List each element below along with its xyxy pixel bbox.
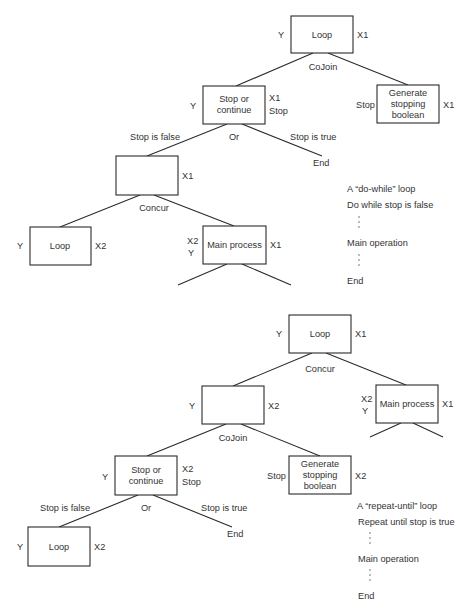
edge-label-stop-false: Stop is false: [130, 132, 180, 142]
edge-blank-to-stop-or-continue: [147, 424, 226, 456]
node-label-line-2: continue: [129, 476, 164, 486]
edge-label-cojoin: CoJoin: [309, 62, 338, 72]
edge-main-process-tail-right: [413, 423, 443, 437]
caption-line-repeat-until: Repeat until stop is true: [358, 517, 455, 527]
node-label-line-2: stopping: [391, 99, 426, 109]
tag-left: Y: [17, 542, 23, 552]
tag-right: X1: [442, 399, 453, 409]
tag-left: Y: [17, 241, 23, 251]
node-stop-or-continue: Stop or continue Y X1 Stop: [190, 86, 288, 124]
edge-label-cojoin: CoJoin: [219, 433, 248, 443]
tag-right-1: X2: [182, 464, 193, 474]
tag-left: Stop: [267, 471, 286, 481]
node-stop-or-continue: Stop or continue Y X2 Stop: [102, 456, 201, 495]
node-label-line-1: Generate: [389, 88, 427, 98]
tag-left: Y: [190, 101, 196, 111]
edge-label-concur: Concur: [139, 203, 169, 213]
edge-loop-to-main-process: [326, 353, 406, 385]
node-main-process: Main process X2 Y X1: [361, 385, 453, 423]
tag-right: X2: [95, 241, 106, 251]
edge-label-end: End: [227, 529, 243, 539]
caption-title: A “do-while” loop: [347, 184, 415, 194]
caption-line-main-operation: Main operation: [347, 238, 408, 248]
node-label: Loop: [310, 329, 330, 339]
caption-line-do-while: Do while stop is false: [347, 200, 433, 210]
tag-left-1: X2: [361, 394, 372, 404]
edge-blank-to-generate: [241, 424, 320, 456]
node-label-line-1: Stop or: [219, 94, 249, 104]
node-blank: Y X2: [189, 386, 279, 424]
do-while-caption: A “do-while” loop Do while stop is false…: [347, 184, 433, 286]
node-label: Main process: [380, 399, 435, 409]
tag-right-2: Stop: [182, 477, 201, 487]
node-label: Loop: [50, 241, 70, 251]
edge-label-concur: Concur: [305, 364, 335, 374]
tag-left: Y: [102, 472, 108, 482]
tag-right: X2: [268, 401, 279, 411]
node-label-line-3: boolean: [304, 481, 337, 491]
tag-right: X1: [355, 329, 366, 339]
node-label-line-1: Generate: [301, 459, 339, 469]
repeat-until-caption: A “repeat-until” loop Repeat until stop …: [357, 501, 455, 601]
node-loop-root: Loop Y X1: [276, 315, 366, 353]
edge-label-stop-true: Stop is true: [290, 132, 336, 142]
tag-right: X1: [357, 30, 368, 40]
edge-main-process-tail-left: [370, 423, 401, 437]
caption-title: A “repeat-until” loop: [357, 501, 437, 511]
node-generate-stopping-boolean: Generate stopping boolean Stop X1: [356, 85, 454, 123]
tag-right-2: Stop: [269, 106, 288, 116]
tag-right: X1: [182, 171, 193, 181]
node-main-process: Main process X2 Y X1: [187, 226, 281, 264]
tag-right: X1: [443, 100, 454, 110]
node-loop-root: Loop Y X1: [278, 16, 368, 53]
node-label-line-3: boolean: [392, 110, 425, 120]
caption-line-main-operation: Main operation: [358, 554, 419, 564]
tag-left-2: Y: [188, 248, 194, 258]
caption-line-end: End: [347, 276, 363, 286]
node-label-line-2: continue: [217, 105, 252, 115]
edge-blank-to-loop: [60, 195, 140, 227]
node-loop-child: Loop Y X2: [17, 527, 105, 566]
node-label-line-1: Stop or: [131, 465, 161, 475]
repeat-until-diagram: Loop Y X1 Concur Y X2 Main process X2 Y …: [17, 315, 455, 601]
edge-loop-to-generate: [328, 53, 408, 85]
node-label-line-2: stopping: [303, 470, 338, 480]
tag-right-1: X1: [269, 93, 280, 103]
edge-loop-to-stop-or-continue: [236, 53, 313, 86]
node-blank: X1: [116, 156, 193, 195]
tag-left: Stop: [356, 100, 375, 110]
node-label: Main process: [207, 240, 262, 250]
node-label: Loop: [49, 542, 69, 552]
edge-main-process-tail-left: [178, 264, 227, 285]
tag-left-1: X2: [187, 236, 198, 246]
edge-label-stop-false: Stop is false: [40, 503, 90, 513]
edge-label-end: End: [313, 158, 329, 168]
tag-left: Y: [276, 329, 282, 339]
tag-right: X2: [355, 471, 366, 481]
tag-left-2: Y: [362, 406, 368, 416]
node-label: Loop: [312, 30, 332, 40]
edge-main-process-tail-right: [242, 264, 291, 285]
edge-label-or: Or: [229, 132, 239, 142]
tag-left: Y: [189, 401, 195, 411]
edge-loop-to-blank: [233, 353, 312, 386]
do-while-diagram: Loop Y X1 CoJoin Stop or continue Y X1 S…: [17, 16, 454, 286]
tag-right: X1: [270, 240, 281, 250]
edge-label-stop-true: Stop is true: [201, 503, 247, 513]
caption-line-end: End: [358, 591, 374, 601]
edge-label-or: Or: [141, 503, 151, 513]
node-generate-stopping-boolean: Generate stopping boolean Stop X2: [267, 456, 366, 494]
tag-right: X2: [94, 542, 105, 552]
node-loop-child: Loop Y X2: [17, 227, 106, 265]
loop-structure-diagrams: Loop Y X1 CoJoin Stop or continue Y X1 S…: [0, 0, 468, 611]
tag-left: Y: [278, 30, 284, 40]
